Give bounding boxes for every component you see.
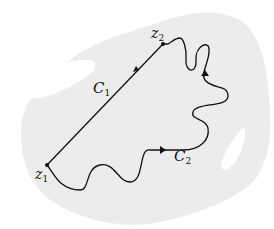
region-shape <box>21 13 271 225</box>
contour-diagram: z1 z2 C1 C2 <box>0 0 274 229</box>
point-z1 <box>45 163 49 167</box>
